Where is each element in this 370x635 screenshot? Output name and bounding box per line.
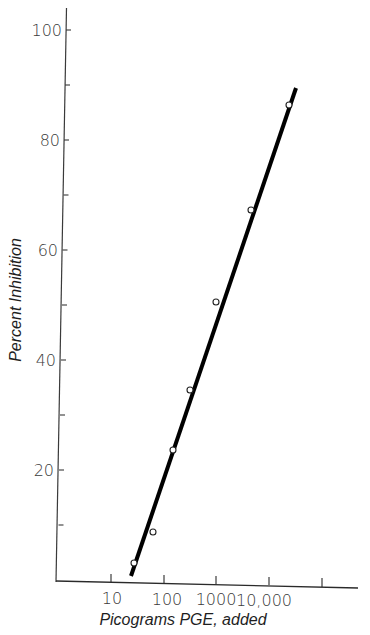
- x-axis-title: Picograms PGE, added: [99, 611, 267, 628]
- data-point: [170, 447, 176, 453]
- data-point: [131, 560, 137, 566]
- data-point: [248, 207, 254, 213]
- y-tick-label-60: 60: [38, 241, 58, 260]
- x-tick-label-100: 100: [152, 590, 183, 609]
- data-point: [286, 102, 292, 108]
- y-tick-label-80: 80: [40, 131, 60, 150]
- x-tick-label-1000: 1000: [196, 590, 237, 609]
- x-axis-line: [56, 581, 358, 588]
- chart-canvas: 100 80 60 40 20 10 100 1000 10,000 Picog…: [0, 0, 370, 635]
- y-tick-label-20: 20: [34, 461, 54, 480]
- data-point: [213, 299, 219, 305]
- data-point: [150, 529, 156, 535]
- data-point: [187, 387, 193, 393]
- fitted-line: [131, 88, 296, 576]
- x-tick-label-10: 10: [102, 589, 122, 608]
- y-axis-line: [56, 8, 67, 582]
- y-tick-label-100: 100: [31, 21, 62, 40]
- y-tick-label-40: 40: [36, 351, 56, 370]
- y-axis-title: Percent Inhibition: [7, 238, 24, 362]
- x-tick-label-10000: 10,000: [236, 591, 292, 610]
